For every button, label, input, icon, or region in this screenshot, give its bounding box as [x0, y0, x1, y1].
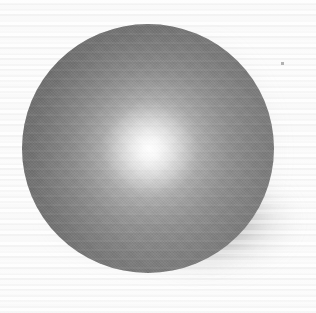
sphere-body — [22, 24, 274, 273]
image-canvas — [0, 0, 316, 313]
sphere-terminator-edge — [22, 24, 274, 273]
